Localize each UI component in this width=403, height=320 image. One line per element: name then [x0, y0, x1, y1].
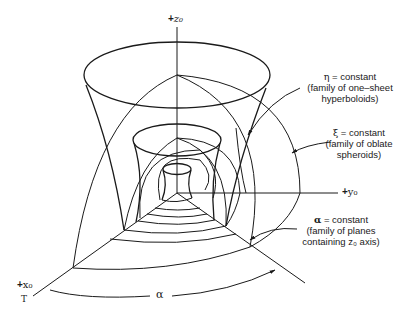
small-hyperboloid-right [189, 170, 192, 198]
small-hyperboloid-base [162, 198, 192, 202]
middle-spheroid-equator [124, 193, 240, 233]
small-hyperboloid-left [162, 170, 165, 200]
middle-spheroid-meridian-x [124, 138, 177, 230]
eta-annotation: η = constant (family of one–sheet hyperb… [300, 71, 400, 104]
x-axis-mark: T [21, 294, 27, 304]
inner-spheroid-arc-2 [140, 150, 216, 218]
outer-hyperboloid-left [86, 85, 124, 230]
y-axis-label: +y₀ [342, 186, 358, 197]
floor-ring-1 [155, 208, 200, 210]
alpha-leader-arrow [250, 228, 297, 240]
floor-ring-4 [110, 234, 236, 243]
outer-spheroid-equator-x-alpha [73, 247, 250, 269]
outer-spheroid-equator-alpha-y [250, 193, 300, 247]
x-axis-label: +x₀ [17, 279, 33, 290]
outer-spheroid-meridian-y [177, 75, 300, 193]
alpha-plane-ray [177, 193, 305, 283]
xi-annotation: ξ = constant (family of oblate spheroids… [318, 127, 400, 160]
floor-ring-2 [147, 214, 207, 217]
eta-leader-arrow [248, 88, 300, 135]
middle-hyperboloid-right [213, 143, 220, 220]
alpha-annotation: α = constant (family of planes containin… [296, 214, 386, 247]
z-axis-label: +z₀ [168, 13, 183, 24]
coordinate-diagram [0, 0, 403, 320]
outer-hyperboloid-right [226, 88, 266, 226]
floor-ring-3 [138, 220, 215, 224]
outer-spheroid-meridian-x [73, 75, 177, 268]
alpha-angle-label: α [156, 288, 163, 301]
